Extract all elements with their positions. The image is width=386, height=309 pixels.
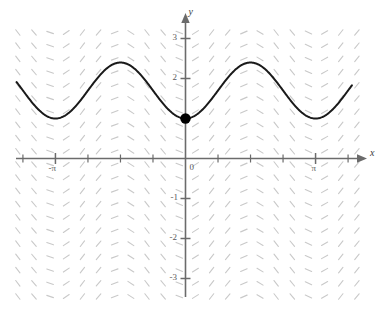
axes-layer (16, 13, 367, 297)
x-tick-label-neg-pi: -π (48, 163, 56, 173)
origin-tick-label: 0 (190, 162, 195, 172)
y-tick-label-neg-2: -2 (170, 232, 178, 242)
y-tick-label-neg-1: -1 (171, 192, 179, 202)
plot-canvas (0, 0, 386, 309)
solution-curve-layer (17, 63, 352, 119)
y-tick-label-3: 3 (173, 32, 178, 42)
slope-field-figure: x y 0 -π π 3 2 -1 -2 -3 (0, 0, 386, 309)
initial-point-layer (180, 113, 190, 123)
x-axis-label: x (370, 147, 374, 158)
slope-field-layer (16, 30, 359, 300)
y-tick-label-neg-3: -3 (170, 272, 178, 282)
y-axis-label: y (189, 6, 193, 17)
y-tick-label-2: 2 (173, 72, 178, 82)
x-tick-label-pi: π (312, 163, 317, 173)
